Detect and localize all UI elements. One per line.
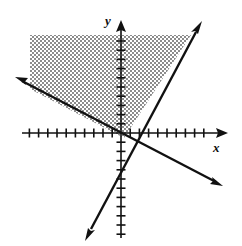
shallow-line-right-arrowhead-icon [210,177,223,186]
steep-line-bottom-arrowhead-icon [85,228,95,241]
steep-line-top-arrowhead-icon [191,21,202,34]
graph-figure: y x [0,0,242,246]
coordinate-plane-svg [0,0,242,246]
y-axis-label: y [105,14,111,27]
x-axis-label: x [213,141,220,154]
